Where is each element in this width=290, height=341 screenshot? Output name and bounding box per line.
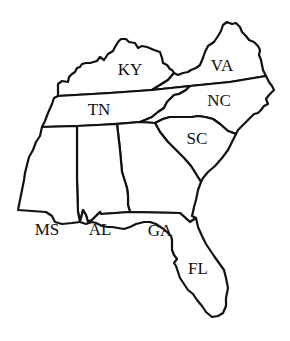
state-label-ga: GA — [148, 222, 173, 239]
state-label-ms: MS — [35, 221, 60, 238]
state-ms[interactable] — [18, 126, 80, 224]
southeast-us-map — [0, 0, 290, 341]
state-label-al: AL — [89, 221, 112, 238]
state-label-ky: KY — [118, 61, 143, 78]
state-label-nc: NC — [207, 92, 231, 109]
state-label-fl: FL — [188, 260, 208, 277]
state-label-va: VA — [211, 57, 233, 74]
state-label-sc: SC — [187, 130, 208, 147]
state-label-tn: TN — [88, 101, 111, 118]
